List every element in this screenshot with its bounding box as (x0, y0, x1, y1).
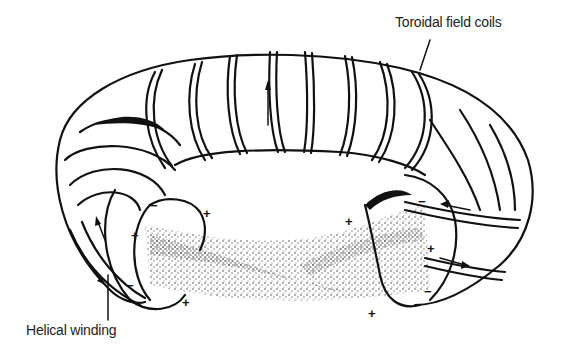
svg-text:+: + (427, 241, 435, 256)
plasma-column (145, 205, 430, 301)
svg-text:−: − (424, 284, 432, 299)
diagram-canvas: − + + − + + − + − + Toroidal field coils… (0, 0, 562, 361)
toroidal-field-coils (146, 52, 431, 170)
helical-winding-label: Helical winding (26, 322, 116, 338)
torus-drawing: − + + − + + − + − + (0, 0, 562, 361)
svg-text:−: − (126, 278, 134, 293)
svg-text:+: + (182, 295, 190, 310)
svg-text:+: + (203, 206, 211, 221)
svg-text:−: − (418, 194, 426, 209)
svg-text:+: + (345, 214, 353, 229)
coil-leader-line (420, 40, 430, 70)
toroidal-field-coils-label: Toroidal field coils (395, 14, 502, 30)
svg-text:+: + (368, 306, 376, 321)
svg-text:−: − (150, 198, 158, 213)
svg-text:+: + (131, 228, 139, 243)
